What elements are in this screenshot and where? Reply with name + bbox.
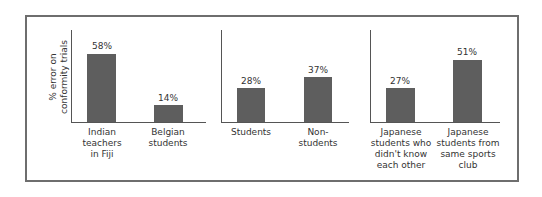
panel-3-x-axis [370, 122, 500, 123]
value-label: 51% [442, 47, 492, 57]
panel-2-x-axis [221, 122, 349, 123]
value-label: 37% [293, 65, 343, 75]
category-label: Non- students [288, 127, 348, 149]
category-label: Students [221, 127, 281, 138]
category-label: Japanese students from same sports club [432, 127, 504, 171]
panel-2-y-axis [221, 30, 222, 123]
panel-1-y-axis [71, 30, 72, 123]
panel-1-x-axis [71, 122, 206, 123]
category-label: Indian teachers in Fiji [72, 127, 132, 160]
category-label: Belgian students [138, 127, 198, 149]
value-label: 27% [375, 76, 425, 86]
bar-japanese-strangers [386, 88, 415, 122]
bar-japanese-sports-club [453, 60, 482, 122]
category-label: Japanese students who didn't know each o… [365, 127, 437, 171]
bar-indian-teachers-fiji [87, 54, 116, 122]
bar-non-students [304, 77, 332, 122]
value-label: 58% [77, 41, 127, 51]
value-label: 28% [226, 76, 276, 86]
value-label: 14% [143, 93, 193, 103]
panel-3-y-axis [370, 30, 371, 123]
y-axis-label: % error on conformity trials [48, 32, 72, 122]
bar-belgian-students [154, 105, 183, 122]
bar-students [237, 88, 265, 122]
